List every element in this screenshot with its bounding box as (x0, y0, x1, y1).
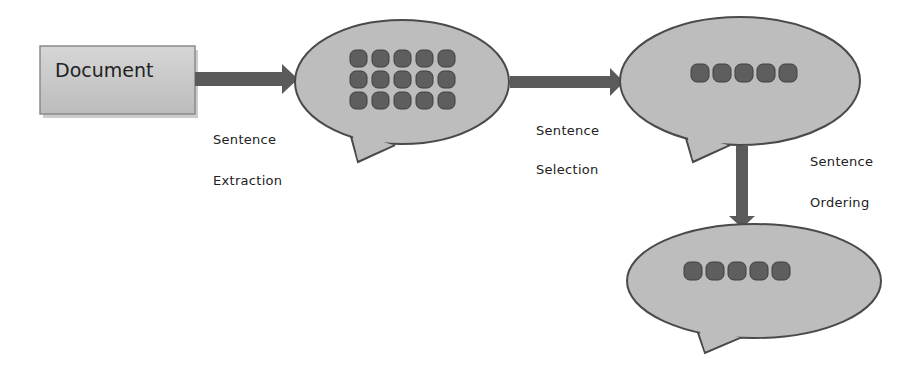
step-ordering-line2: Ordering (810, 195, 869, 210)
step-extraction-line1: Sentence (213, 132, 276, 147)
dot-row-5 (684, 262, 790, 280)
pipeline-diagram (0, 0, 924, 371)
dot-row-5 (691, 64, 797, 82)
arrow-selection (510, 68, 624, 96)
document-label: Document (55, 59, 153, 81)
bubble-ordered-sentences (627, 224, 881, 353)
step-selection-line1: Sentence (536, 123, 599, 138)
document-box (40, 46, 198, 118)
bubble-selected-sentences (620, 17, 860, 162)
arrow-ordering (729, 146, 755, 228)
step-extraction-line2: Extraction (213, 173, 282, 188)
step-selection-line2: Selection (536, 162, 599, 177)
arrow-extraction (195, 64, 298, 94)
step-ordering-line1: Sentence (810, 154, 873, 169)
bubble-extracted-sentences (295, 20, 509, 162)
dot-grid-3x5 (350, 50, 455, 109)
